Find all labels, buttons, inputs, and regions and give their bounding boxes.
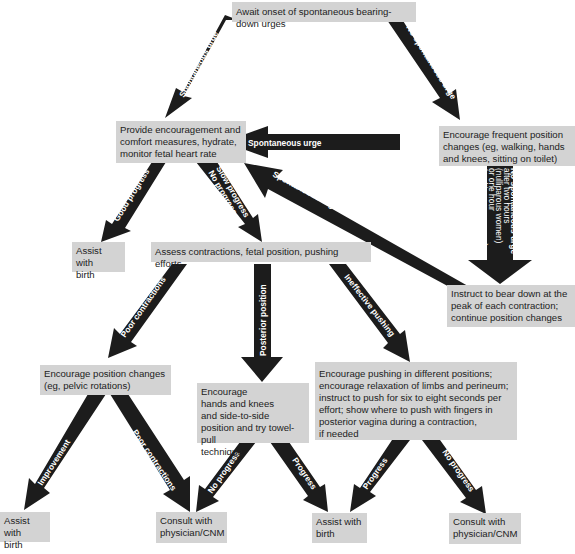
arrow-ineffective-pushing [329,264,410,362]
box-instruct-bear-down: Instruct to bear down at the peak of eac… [447,285,575,327]
box-await-urges: Await onset of spontaneous bearing-down … [232,2,416,22]
label-slow-progress: Slow progress No progress [206,164,251,224]
arrow-no-spontaneous-urge [387,16,460,120]
box-consult-physician-left: Consult with physician/CNM [156,512,227,543]
arrow-poor-contractions-1 [108,264,187,358]
label-no-urge-after-hours: No spontaneous urge after two hours (nul… [479,168,519,254]
box-assist-with-birth-mid: Assist with birth [312,513,367,543]
box-encourage-frequent-position: Encourage frequent position changes (eg,… [439,126,575,166]
label-improvement: Improvement [35,437,72,487]
box-consult-physician-right: Consult with physician/CNM [449,513,521,544]
label-posterior-position: Posterior position [258,284,268,356]
arrow-spontaneous-urge-diagonal [244,163,475,290]
label-poor-contractions-1: Poor contractions [118,274,167,339]
label-spontaneous-urge-horizontal: Spontaneous urge [248,138,322,148]
box-assist-with-birth-top: Assist with birth [72,242,125,272]
box-encourage-pushing: Encourage pushing in different positions… [315,362,517,440]
label-progress-2: Progress [360,455,389,491]
box-encourage-hands-and-knees: Encourage hands and knees and side-to-si… [197,383,309,443]
box-assist-with-birth-left: Assist with birth [0,512,50,542]
box-encourage-position-changes: Encourage position changes (eg, pelvic r… [40,365,171,395]
label-no-spontaneous-urge: No spontaneous urge [404,23,458,102]
box-assess-contractions: Assess contractions, fetal position, pus… [151,242,371,262]
svg-text:(multiparous women): (multiparous women) [479,168,489,246]
label-ineffective-pushing: Ineffective pushing [342,272,397,338]
box-provide-encouragement: Provide encouragement and comfort measur… [116,121,246,163]
arrow-progress-2 [350,440,410,512]
arrow-progress-1 [270,442,328,512]
arrow-no-progress-2 [422,440,486,514]
arrow-good-progress [101,162,166,242]
label-spontaneous-urge-1: Spontaneous urge [177,29,221,99]
